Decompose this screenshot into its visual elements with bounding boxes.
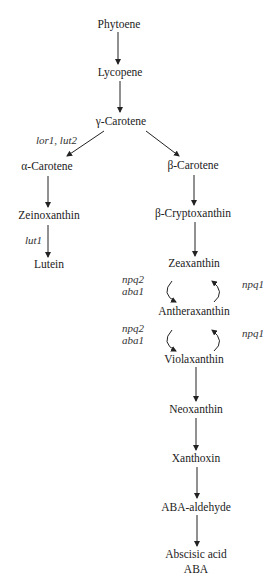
gene-aba1-bottom: aba1 (122, 334, 144, 346)
gene-lut1: lut1 (25, 234, 42, 246)
node-antheraxanthin: Antheraxanthin (158, 304, 230, 318)
node-beta-cryptoxanthin: β-Cryptoxanthin (155, 206, 231, 220)
node-phytoene: Phytoene (98, 17, 141, 31)
gene-lor1-lut2: lor1, lut2 (36, 134, 77, 146)
node-lutein: Lutein (34, 257, 64, 271)
node-neoxanthin: Neoxanthin (169, 402, 223, 416)
gene-npq1-bottom: npq1 (242, 327, 264, 339)
node-aba-aldehyde: ABA-aldehyde (161, 500, 231, 514)
node-aba: ABA (184, 562, 208, 576)
node-abscisic-acid: Abscisic acid (165, 547, 227, 561)
node-zeinoxanthin: Zeinoxanthin (18, 208, 79, 222)
node-xanthoxin: Xanthoxin (172, 451, 221, 465)
node-zeaxanthin: Zeaxanthin (168, 256, 220, 270)
node-alpha-carotene: α-Carotene (21, 159, 72, 173)
gene-npq2-top: npq2 (122, 273, 144, 285)
node-violaxanthin: Violaxanthin (164, 352, 223, 366)
node-beta-carotene: β-Carotene (167, 158, 218, 172)
gene-npq1-top: npq1 (242, 278, 264, 290)
gene-npq2-bottom: npq2 (122, 322, 144, 334)
node-lycopene: Lycopene (98, 65, 143, 79)
gene-aba1-top: aba1 (122, 285, 144, 297)
node-gamma-carotene: γ-Carotene (96, 114, 146, 128)
